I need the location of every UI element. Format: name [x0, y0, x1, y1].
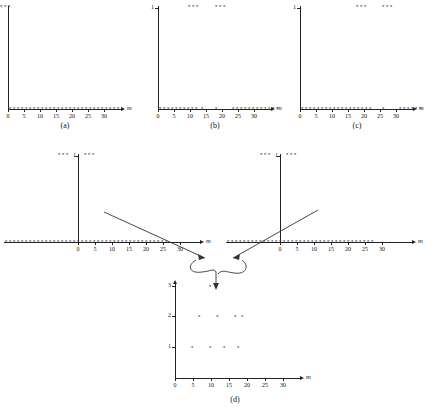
caption-d: (d)	[215, 395, 255, 404]
scatter-svg-a: · * * * * * * * * * * * * * * * * * * * …	[0, 0, 145, 130]
caption-c: (c)	[337, 121, 377, 130]
svg-text:* * *: * * *	[215, 4, 226, 10]
svg-text:*: *	[241, 314, 244, 320]
data-points-b: * * * * * * * * * * * * * * * * * * * * …	[140, 0, 285, 130]
scatter-svg-d-left: * * * * * * * * * * * * * * * * * * * * …	[0, 140, 220, 265]
svg-text:*: *	[215, 106, 218, 112]
svg-text:*: *	[201, 106, 204, 112]
svg-text:*: *	[382, 106, 385, 112]
panel-c: m 1 0 5 10 15 20 25 30 * * * * * * * * *…	[282, 0, 427, 130]
svg-text:*: *	[191, 345, 194, 351]
scatter-svg-d-right: * * * * * * * * * * * * * * * * * * * * …	[222, 140, 427, 265]
svg-text:*: *	[223, 345, 226, 351]
data-points-a: · * * * * * * * * * * * * * * * * * * * …	[0, 0, 145, 130]
svg-text:*: *	[198, 314, 201, 320]
svg-text:* * * * * * * * * * * * * * *: * * * * * * * * * * * * * * * * * *	[301, 106, 372, 112]
svg-text:* * *: * * *	[0, 4, 11, 10]
data-points-d-left: * * * * * * * * * * * * * * * * * * * * …	[0, 140, 220, 265]
svg-text:* * *: * * *	[260, 152, 271, 158]
svg-text:* * * * * * * * * * * * * * *: * * * * * * * * * * * * * * * * * * * * …	[5, 239, 168, 245]
caption-b: (b)	[195, 121, 235, 130]
panel-d-right: m 1 0 5 10 15 20 25 30 * * * * * * * * *…	[222, 140, 427, 265]
svg-text:* * *: * * *	[58, 152, 69, 158]
svg-text:* * * * * * * * * *: * * * * * * * * * *	[159, 106, 198, 112]
panel-d-left: m 1 0 5 10 15 20 25 30 * * * * * * * * *…	[0, 140, 220, 265]
panel-b: m 1 0 5 10 15 20 25 30 * * * * * * * * *…	[140, 0, 285, 130]
scatter-svg-b: * * * * * * * * * * * * * * * * * * * * …	[140, 0, 285, 130]
svg-text:*: *	[209, 284, 212, 290]
svg-text:* * *: * * *	[382, 4, 393, 10]
scatter-svg-c: * * * * * * * * * * * * * * * * * * * * …	[282, 0, 427, 130]
data-points-c: * * * * * * * * * * * * * * * * * * * * …	[282, 0, 427, 130]
svg-text:* * *: * * *	[84, 152, 95, 158]
svg-text:*: *	[234, 314, 237, 320]
svg-text:* * *: * * *	[356, 4, 367, 10]
panel-a: m 0 5 10 15 20 25 30 · * * * * * * * * *…	[0, 0, 145, 130]
svg-text:* * * * * * * * * * * * * * *: * * * * * * * * * * * * * * * * * * * * …	[227, 239, 374, 245]
svg-text:* * *: * * *	[286, 152, 297, 158]
svg-text:* * * * * * * * * * * *: * * * * * * * * * * * *	[232, 106, 279, 112]
svg-text:*: *	[216, 314, 219, 320]
caption-a: (a)	[45, 121, 85, 130]
panel-d-bottom: m 1 2 3 0 5 10 15 20 25 30 * * * * * * *	[155, 278, 335, 415]
svg-text:* * *: * * *	[188, 4, 199, 10]
svg-text:*: *	[237, 345, 240, 351]
data-points-d-right: * * * * * * * * * * * * * * * * * * * * …	[222, 140, 427, 265]
svg-text:* * * * * * * * * * * * * * *: * * * * * * * * * * * * * * * * * * * * …	[9, 106, 120, 112]
svg-text:* * * * * *: * * * * * *	[399, 106, 422, 112]
svg-text:*: *	[209, 345, 212, 351]
